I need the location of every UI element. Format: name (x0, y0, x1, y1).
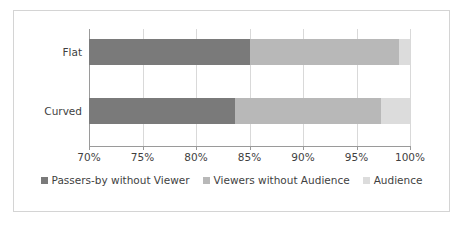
bar-row: Curved (89, 98, 410, 124)
x-axis-tick-label: 90% (291, 151, 314, 163)
legend-swatch-icon (41, 177, 48, 184)
legend-label: Passers-by without Viewer (52, 174, 190, 186)
x-axis-tickmark (250, 146, 251, 150)
category-label-flat: Flat (62, 39, 82, 65)
legend-label: Audience (374, 174, 423, 186)
chart-legend: Passers-by without Viewer Viewers withou… (14, 174, 449, 186)
legend-swatch-icon (203, 177, 210, 184)
bar-segment-passers-by-curved (89, 98, 235, 124)
chart-frame: Flat Curved 70%75%80%85%90%95%100% Passe… (13, 10, 450, 212)
bar-segment-audience-flat (399, 39, 410, 65)
bar-segment-viewers-flat (250, 39, 400, 65)
legend-label: Viewers without Audience (214, 174, 350, 186)
x-axis-tick-label: 75% (131, 151, 154, 163)
x-axis-tick-label: 85% (238, 151, 261, 163)
bar-segment-audience-curved (381, 98, 410, 124)
category-label-curved: Curved (44, 98, 82, 124)
x-axis-tickmark (143, 146, 144, 150)
x-axis-tick-label: 80% (184, 151, 207, 163)
x-axis-tickmark (196, 146, 197, 150)
bar-row: Flat (89, 39, 410, 65)
x-axis-tickmark (410, 146, 411, 150)
x-axis-tick-label: 100% (395, 151, 425, 163)
x-axis-tickmark (303, 146, 304, 150)
x-axis-tickmark (357, 146, 358, 150)
bar-segment-passers-by-flat (89, 39, 250, 65)
bar-segment-viewers-curved (235, 98, 382, 124)
gridline (410, 29, 411, 146)
legend-item-passers-by: Passers-by without Viewer (41, 174, 190, 186)
x-axis-tick-label: 70% (77, 151, 100, 163)
legend-item-audience: Audience (363, 174, 423, 186)
plot-area: Flat Curved 70%75%80%85%90%95%100% (89, 29, 410, 146)
x-axis-tick-label: 95% (345, 151, 368, 163)
legend-swatch-icon (363, 177, 370, 184)
x-axis-tickmark (89, 146, 90, 150)
legend-item-viewers: Viewers without Audience (203, 174, 350, 186)
